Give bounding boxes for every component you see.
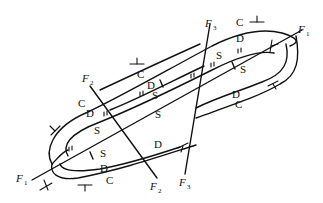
label-c: C <box>78 97 85 109</box>
strike-dip-symbol <box>130 58 144 64</box>
bedding-tick <box>69 146 72 151</box>
svg-text:F: F <box>297 23 305 35</box>
fault-label-f1-west: F 1 <box>15 172 28 187</box>
label-s: S <box>240 63 246 75</box>
svg-text:F: F <box>81 72 89 84</box>
bedding-tick <box>191 73 194 78</box>
label-s: S <box>216 49 222 61</box>
outer-contact-east <box>196 36 298 118</box>
fault-label-f1-east: F 1 <box>297 23 310 38</box>
fault-label-f3-north: F 3 <box>204 17 217 32</box>
geological-map: C D S S D C C D S S C D S S D C D F 1 F … <box>0 0 323 203</box>
strike-dip-symbol <box>50 126 60 135</box>
bedding-tick <box>238 48 241 53</box>
svg-text:2: 2 <box>158 187 162 195</box>
label-c: C <box>106 174 113 186</box>
dip-arrow <box>90 152 93 159</box>
svg-text:F: F <box>149 180 157 192</box>
outer-contact-north <box>49 31 296 164</box>
svg-text:1: 1 <box>306 30 310 38</box>
label-c: C <box>236 16 243 28</box>
svg-text:3: 3 <box>187 183 191 191</box>
svg-text:2: 2 <box>90 79 94 87</box>
inner-contact-1 <box>110 66 204 110</box>
outer-contact-south <box>52 145 196 179</box>
middle-contact-south <box>60 147 180 171</box>
svg-text:3: 3 <box>213 24 217 32</box>
strike-dip-symbol <box>250 16 264 22</box>
fault-f1 <box>32 30 302 180</box>
fault-f3 <box>185 24 210 174</box>
svg-text:F: F <box>204 17 212 29</box>
label-d: D <box>86 107 94 119</box>
svg-text:1: 1 <box>24 179 28 187</box>
bedding-tick <box>140 91 143 96</box>
label-d: D <box>100 162 108 174</box>
fault-label-f2-north: F 2 <box>81 72 94 87</box>
bedding-tick <box>104 111 107 116</box>
label-c: C <box>235 98 242 110</box>
strike-dip-symbol <box>40 180 52 190</box>
label-s: S <box>100 147 106 159</box>
label-s: S <box>155 108 161 120</box>
svg-text:F: F <box>178 176 186 188</box>
label-s: S <box>94 124 100 136</box>
fault-label-f2-south: F 2 <box>149 180 162 195</box>
fault-label-f3-south: F 3 <box>178 176 191 191</box>
label-d: D <box>236 32 244 44</box>
strike-dip-symbol <box>78 185 92 191</box>
bedding-tick <box>211 62 214 67</box>
label-c: C <box>137 68 144 80</box>
label-d: D <box>154 138 162 150</box>
label-s: S <box>152 89 158 101</box>
svg-text:F: F <box>15 172 23 184</box>
